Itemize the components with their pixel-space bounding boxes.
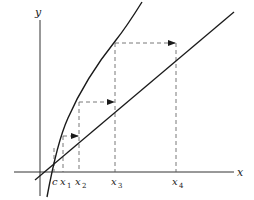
label-x1-base: x [60,176,66,187]
line-y-equals-x [35,12,234,180]
label-x3: x 3 [111,176,122,190]
label-c: c [52,176,58,187]
label-x1-sub: 1 [67,182,71,190]
label-x4-sub: 4 [179,182,184,190]
label-x4: x 4 [172,176,184,190]
curve-g [47,2,142,197]
label-x3-sub: 3 [118,182,122,190]
label-x3-base: x [111,176,117,187]
label-x2-sub: 2 [82,182,86,190]
label-x1: x 1 [60,176,71,190]
iteration-arrows [63,43,175,136]
x-axis-label: x [237,166,244,179]
label-x4-base: x [172,176,178,187]
label-x2: x 2 [75,176,86,190]
y-axis-label: y [34,6,42,19]
fixed-point-diagram: y x c x 1 x 2 x 3 x 4 [0,0,254,200]
label-x2-base: x [75,176,81,187]
